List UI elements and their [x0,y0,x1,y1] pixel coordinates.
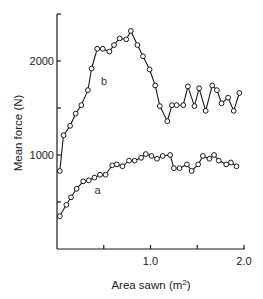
data-point-marker [69,195,74,200]
data-point-marker [229,160,234,165]
data-point-marker [196,162,201,167]
data-point-marker [128,29,133,34]
data-point-marker [85,88,90,93]
data-point-marker [120,164,125,169]
data-point-marker [86,178,91,183]
data-point-marker [114,162,119,167]
data-point-marker [207,156,212,161]
data-point-marker [224,162,229,167]
data-point-marker [168,153,173,158]
data-point-marker [192,104,197,109]
series-line-a [60,154,237,216]
data-point-marker [139,155,144,160]
data-point-marker [153,83,158,88]
data-point-marker [186,84,191,89]
data-point-marker [185,162,190,167]
series-layer [57,29,241,219]
axes [57,14,245,249]
data-point-marker [103,172,108,177]
data-point-marker [226,95,231,100]
chart: 1.02.010002000Area sawn (m2)Mean force (… [0,0,263,299]
series-a [57,152,239,219]
series-b [57,29,241,174]
data-point-marker [57,169,62,174]
data-point-marker [214,88,219,93]
data-point-marker [210,83,215,88]
data-point-marker [234,164,239,169]
series-label-a: a [94,184,101,196]
data-point-marker [117,36,122,41]
data-point-marker [231,108,236,113]
data-point-marker [181,103,186,108]
data-point-marker [212,153,217,158]
data-point-marker [95,46,100,51]
y-tick-label: 2000 [30,55,54,67]
data-point-marker [57,214,62,219]
data-point-marker [127,158,132,163]
series-label-b: b [101,75,107,87]
x-axis-title: Area sawn (m2) [111,278,190,291]
data-point-marker [79,103,84,108]
data-point-marker [124,37,129,42]
y-axis-title: Mean force (N) [12,94,24,171]
data-point-marker [141,54,146,59]
data-point-marker [157,104,162,109]
data-point-marker [200,154,205,159]
data-point-marker [81,179,86,184]
data-point-marker [237,91,242,96]
data-point-marker [132,158,137,163]
data-point-marker [147,67,152,72]
x-tick-label: 1.0 [143,255,158,267]
data-point-marker [174,103,179,108]
data-point-marker [74,186,79,191]
data-point-marker [107,49,112,54]
data-point-marker [160,154,165,159]
y-tick-label: 1000 [30,149,54,161]
data-point-marker [112,43,117,48]
data-point-marker [68,123,73,128]
data-point-marker [64,202,69,207]
data-point-marker [219,101,224,106]
data-point-marker [73,111,78,116]
x-tick-label: 2.0 [236,255,251,267]
data-point-marker [170,103,175,108]
data-point-marker [98,172,103,177]
data-point-marker [149,154,154,159]
data-point-marker [143,152,148,157]
data-point-marker [177,166,182,171]
series-line-b [60,31,240,171]
data-point-marker [165,119,170,124]
data-point-marker [189,169,194,174]
data-point-marker [92,175,97,180]
data-point-marker [135,43,140,48]
data-point-marker [203,108,208,113]
data-point-marker [171,166,176,171]
data-point-marker [100,46,105,51]
data-point-marker [216,158,221,163]
data-point-marker [89,66,94,71]
data-point-marker [110,163,115,168]
data-point-marker [155,156,160,161]
data-point-marker [197,86,202,91]
data-point-marker [61,133,66,138]
